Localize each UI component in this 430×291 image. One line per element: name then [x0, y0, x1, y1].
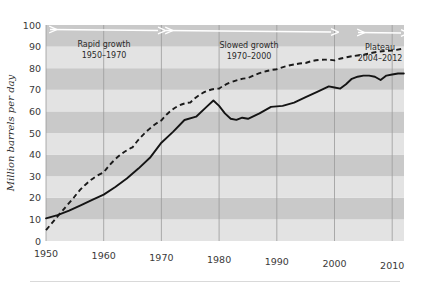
y-tick-0: 0 [35, 236, 41, 247]
band-10-20 [46, 198, 404, 220]
band-30-40 [46, 155, 404, 177]
x-tick-1950: 1950 [34, 248, 58, 259]
oil-production-chart-figure: 100 90 80 70 60 50 40 30 20 10 0 Million… [0, 0, 430, 291]
annotation-plateau-label: Plateau [365, 43, 395, 52]
y-tick-70: 70 [29, 84, 41, 95]
y-axis-tick-labels: 100 90 80 70 60 50 40 30 20 10 0 [23, 20, 41, 247]
x-tick-1980: 1980 [207, 254, 231, 265]
x-tick-1990: 1990 [265, 256, 289, 267]
x-tick-2010: 2010 [380, 260, 404, 271]
y-tick-90: 90 [29, 41, 41, 52]
y-tick-30: 30 [29, 171, 41, 182]
y-axis-title: Million barrels per day [5, 75, 16, 193]
annotation-plateau-period: 2004–2012 [358, 54, 403, 63]
x-tick-1960: 1960 [92, 250, 116, 261]
band-60-70 [46, 90, 404, 112]
x-tick-2000: 2000 [322, 258, 346, 269]
annotation-rapid-growth-label: Rapid growth [77, 40, 130, 49]
annotation-slowed-growth-label: Slowed growth [219, 41, 278, 50]
annotation-slowed-growth-period: 1970–2000 [227, 52, 272, 61]
y-tick-50: 50 [29, 128, 41, 139]
annotation-rapid-growth-period: 1950–1970 [82, 51, 127, 60]
y-tick-80: 80 [29, 63, 41, 74]
y-tick-60: 60 [29, 106, 41, 117]
x-tick-1970: 1970 [149, 252, 173, 263]
x-axis-tick-labels: 1950 1960 1970 1980 1990 2000 2010 [34, 248, 404, 271]
y-tick-40: 40 [29, 149, 41, 160]
y-tick-10: 10 [29, 214, 41, 225]
chart-canvas: 100 90 80 70 60 50 40 30 20 10 0 Million… [0, 0, 430, 291]
y-tick-20: 20 [29, 192, 41, 203]
band-20-30 [46, 176, 404, 198]
arrow-plateau [358, 33, 401, 34]
band-40-50 [46, 133, 404, 155]
band-0-10 [46, 219, 404, 241]
bottom-divider-rule [30, 281, 400, 282]
y-tick-100: 100 [23, 20, 41, 31]
arrow-rapid-growth [50, 30, 158, 31]
